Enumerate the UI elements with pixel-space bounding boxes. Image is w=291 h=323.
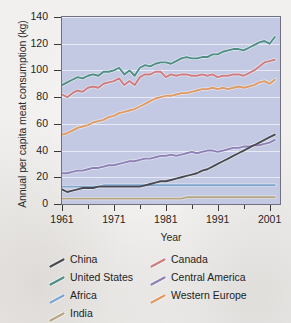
legend-item-central-america[interactable]: Central America [150,271,287,283]
y-tick-label: 60 [8,117,48,129]
x-minor-tick [192,205,193,209]
y-tick [54,97,61,98]
legend-item-canada[interactable]: Canada [150,253,287,265]
y-tick-label: 140 [8,10,48,22]
series-halo-canada [62,60,275,97]
x-minor-tick [140,205,141,209]
legend-label: Central America [171,271,246,283]
series-halo-china [62,135,275,192]
legend-swatch-icon [49,308,65,318]
legend-swatch-icon [49,254,65,264]
x-tick-label: 1981 [141,213,191,225]
series-line-united-states [62,37,275,85]
legend-label: Western Europe [171,289,247,301]
x-tick [270,205,271,211]
legend-swatch-icon [150,254,166,264]
y-tick-label: 0 [8,197,48,209]
legend-item-china[interactable]: China [49,253,150,265]
plot-area [61,16,281,205]
y-tick-label: 100 [8,63,48,75]
legend-label: United States [70,271,133,283]
series-line-canada [62,60,275,97]
y-tick-label: 80 [8,90,48,102]
legend-swatch-icon [150,290,166,300]
x-minor-tick [244,205,245,209]
x-minor-tick [88,205,89,209]
legend-item-united-states[interactable]: United States [49,271,150,283]
y-tick [54,44,61,45]
x-tick-label: 1991 [193,213,243,225]
legend-label: Africa [70,289,97,301]
y-tick-label: 40 [8,144,48,156]
x-tick-label: 1961 [37,213,87,225]
y-tick-label: 20 [8,170,48,182]
y-tick [54,70,61,71]
y-tick [54,17,61,18]
x-tick-label: 1971 [89,213,139,225]
y-tick-label: 120 [8,37,48,49]
y-tick [54,204,61,205]
legend-item-africa[interactable]: Africa [49,289,150,301]
legend-swatch-icon [49,290,65,300]
x-tick [114,205,115,211]
legend-swatch-icon [150,272,166,282]
series-halo-united-states [62,37,275,85]
legend-label: China [70,253,97,265]
x-tick [218,205,219,211]
legend-label: India [70,307,93,319]
series-lines [62,17,280,204]
meat-consumption-line-chart: Annual per capita meat consumption (kg) … [0,0,291,323]
chart-legend: ChinaCanadaUnited StatesCentral AmericaA… [49,250,287,322]
legend-item-india[interactable]: India [49,307,150,319]
legend-item-western-europe[interactable]: Western Europe [150,289,287,301]
y-tick [54,177,61,178]
series-line-china [62,135,275,192]
legend-swatch-icon [49,272,65,282]
x-tick [166,205,167,211]
x-tick [62,205,63,211]
x-tick-label: 2001 [245,213,291,225]
legend-label: Canada [171,253,208,265]
y-tick [54,124,61,125]
x-axis-label: Year [61,231,281,243]
y-tick [54,151,61,152]
